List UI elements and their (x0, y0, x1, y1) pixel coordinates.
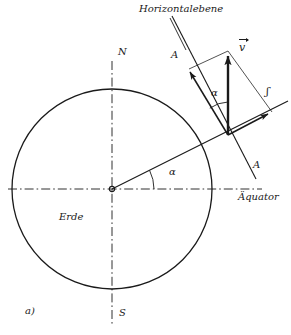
section-label-a-bottom: A (253, 160, 260, 170)
equator-component-arrow (228, 114, 268, 135)
pole-south-label: S (119, 308, 126, 318)
axes-group (8, 61, 262, 325)
velocity-vector-letter: v (239, 41, 245, 54)
vector-parallelogram (189, 51, 272, 112)
earth-body-label: Erde (59, 212, 83, 222)
equator-label: Äquator (238, 192, 279, 202)
equator-ray (112, 101, 288, 189)
velocity-component-label: ʃ (266, 86, 269, 97)
horizontal-plane-label: Horizontalebene (139, 4, 223, 14)
pole-north-label: N (118, 47, 127, 57)
horizontal-plane-component-arrow (190, 72, 228, 135)
vector-arrow-accent (239, 39, 248, 40)
angle-arc-center (150, 170, 154, 189)
angle-label-center: α (169, 167, 176, 177)
figure-container: Horizontalebene v ʃ A A Äquator α α N S … (0, 0, 291, 335)
figure-caption: a) (25, 306, 35, 316)
diagram-canvas (0, 0, 291, 335)
section-label-a-top: A (171, 50, 178, 60)
leader-line-horizontalebene (170, 18, 186, 50)
velocity-vector-label: v (239, 42, 245, 53)
angle-label-vertex: α (211, 88, 218, 98)
parallelogram-side-right (228, 51, 272, 112)
